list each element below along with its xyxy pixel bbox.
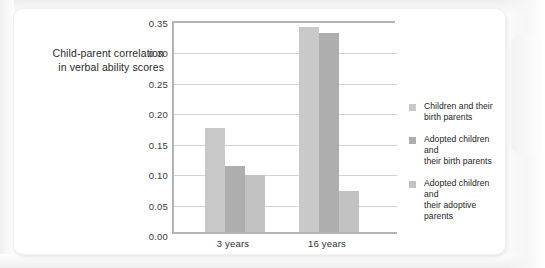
legend-swatch: [409, 137, 416, 144]
legend-label: Children and theirbirth parents: [424, 101, 505, 123]
gridline: [174, 53, 397, 54]
legend-label-line2: birth parents: [424, 112, 505, 123]
legend-label-line2: their adoptive parents: [424, 200, 505, 222]
chart-legend: Children and theirbirth parentsAdopted c…: [409, 101, 505, 233]
legend-label-line1: Children and their: [424, 101, 505, 112]
scan-shadow-bottom: [0, 254, 545, 268]
legend-label: Adopted children andtheir adoptive paren…: [424, 178, 505, 222]
y-axis-title-line1: Child-parent correlation: [22, 47, 164, 61]
scan-shadow-left: [0, 0, 14, 268]
legend-label: Adopted children andtheir birth parents: [424, 134, 505, 167]
y-axis-tick-label: 0.05: [149, 200, 168, 211]
y-axis-tick-label: 0.20: [149, 109, 168, 120]
bar-chart: Child-parent correlation in verbal abili…: [14, 9, 505, 254]
page-edge-curl: [511, 34, 537, 154]
legend-swatch: [409, 104, 416, 111]
y-axis-tick-label: 0.25: [149, 78, 168, 89]
plot-area: 0.000.050.100.150.200.250.300.35: [172, 21, 395, 234]
legend-label-line1: Adopted children and: [424, 178, 505, 200]
y-axis-tick-label: 0.30: [149, 48, 168, 59]
legend-item: Children and theirbirth parents: [409, 101, 505, 123]
y-axis-tick-label: 0.10: [149, 170, 168, 181]
figure-card: Child-parent correlation in verbal abili…: [14, 9, 505, 254]
gridline: [174, 114, 397, 115]
legend-label-line2: their birth parents: [424, 156, 505, 167]
page-edge-shadow: [503, 0, 545, 268]
scanned-page: Child-parent correlation in verbal abili…: [0, 0, 545, 268]
y-axis-title-line2: in verbal ability scores: [22, 61, 164, 75]
legend-item: Adopted children andtheir birth parents: [409, 134, 505, 167]
legend-swatch: [409, 181, 416, 188]
x-axis-tick-label: 3 years: [193, 238, 273, 249]
y-axis-title: Child-parent correlation in verbal abili…: [22, 47, 164, 74]
bar: [299, 27, 319, 234]
x-axis-line: [172, 232, 397, 234]
y-axis-tick-label: 0.15: [149, 139, 168, 150]
gridline: [174, 84, 397, 85]
legend-label-line1: Adopted children and: [424, 134, 505, 156]
bar: [245, 175, 265, 234]
legend-item: Adopted children andtheir adoptive paren…: [409, 178, 505, 222]
bar: [339, 191, 359, 234]
x-axis-tick-label: 16 years: [287, 238, 367, 249]
y-axis-tick-label: 0.00: [149, 231, 168, 242]
bar: [319, 33, 339, 234]
y-axis-tick-label: 0.35: [149, 18, 168, 29]
bar: [225, 166, 245, 234]
bar: [205, 128, 225, 235]
